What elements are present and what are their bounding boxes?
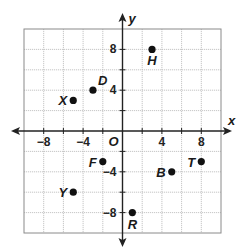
point-dot: [89, 87, 96, 94]
point-X: X: [58, 93, 77, 108]
axes: [11, 13, 232, 247]
point-D: D: [89, 73, 108, 94]
point-dot: [148, 46, 155, 53]
point-dot: [198, 158, 205, 165]
point-label: F: [89, 155, 98, 170]
y-tick-label: 8: [110, 42, 117, 56]
point-dot: [129, 209, 136, 216]
point-label: H: [147, 53, 157, 68]
point-dot: [70, 97, 77, 104]
point-label: B: [156, 165, 165, 180]
x-tick-label: 8: [198, 135, 205, 149]
point-Y: Y: [59, 185, 77, 200]
point-dot: [70, 189, 77, 196]
x-tick-label: −8: [37, 135, 51, 149]
point-H: H: [147, 46, 157, 69]
x-tick-label: 4: [159, 135, 166, 149]
y-tick-label: −4: [103, 165, 117, 179]
point-dot: [99, 158, 106, 165]
point-label: R: [128, 217, 138, 232]
point-dot: [168, 168, 175, 175]
y-tick-label: −8: [103, 206, 117, 220]
point-label: D: [98, 73, 108, 88]
point-label: Y: [59, 185, 69, 200]
point-label: X: [58, 93, 69, 108]
coordinate-plane: −8−44884−4−8 HDXFYBTR x y O: [0, 0, 244, 250]
point-B: B: [156, 165, 175, 180]
x-tick-label: −4: [76, 135, 90, 149]
x-axis-label: x: [227, 113, 236, 128]
point-label: T: [187, 155, 196, 170]
point-T: T: [187, 155, 205, 170]
y-axis-label: y: [128, 11, 137, 26]
origin-label: O: [109, 134, 119, 149]
y-tick-label: 4: [110, 83, 117, 97]
